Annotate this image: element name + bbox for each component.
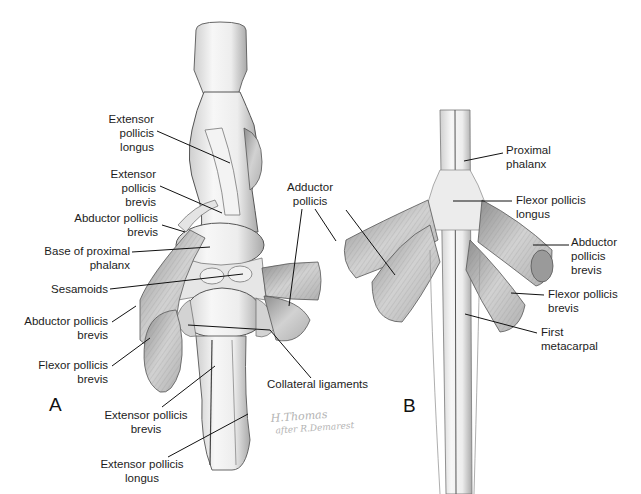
label-extensor-pollicis-brevis-top: Extensor pollicis brevis <box>90 167 156 209</box>
label-abductor-pollicis-brevis: Abductor pollicis brevis <box>571 235 641 277</box>
label-collateral-ligaments: Collateral ligaments <box>267 377 397 391</box>
panel-label-b: B <box>403 395 416 417</box>
label-first-metacarpal: First metacarpal <box>541 325 621 353</box>
label-adductor-pollicis: Adductor pollicis <box>280 180 340 208</box>
label-abductor-pollicis-brevis-top: Abductor pollicis brevis <box>50 211 158 239</box>
label-proximal-phalanx: Proximal phalanx <box>506 143 576 171</box>
panel-label-a: A <box>49 394 62 416</box>
label-extensor-pollicis-brevis-bottom: Extensor pollicis brevis <box>96 408 196 436</box>
label-flexor-pollicis-longus: Flexor pollicis longus <box>516 193 616 221</box>
label-flexor-pollicis-brevis: Flexor pollicis brevis <box>10 358 108 386</box>
anatomy-figure: Extensor pollicis longus Extensor pollic… <box>0 0 641 494</box>
label-abductor-pollicis-brevis-bottom: Abductor pollicis brevis <box>0 314 108 342</box>
label-sesamoids: Sesamoids <box>40 282 108 296</box>
label-extensor-pollicis-longus-top: Extensor pollicis longus <box>90 112 154 154</box>
label-extensor-pollicis-longus-bottom: Extensor pollicis longus <box>92 457 192 485</box>
label-base-of-proximal-phalanx: Base of proximal phalanx <box>30 244 130 272</box>
label-flexor-pollicis-brevis-b: Flexor pollicis brevis <box>548 287 641 315</box>
